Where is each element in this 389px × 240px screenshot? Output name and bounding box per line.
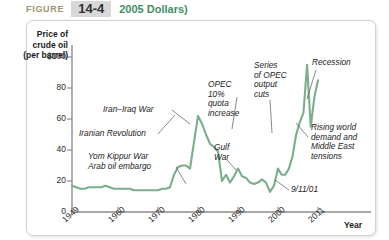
annotation-opec-cuts: Seriesof OPECoutputcuts bbox=[254, 61, 287, 99]
leader-line-opec-cuts bbox=[270, 100, 272, 133]
annotation-gulf-war: GulfWar bbox=[214, 143, 229, 162]
leader-line-iran-iraq-war bbox=[172, 110, 190, 124]
leader-line-yom-kippur bbox=[176, 167, 186, 184]
annotation-yom-kippur: Yom Kippur WarArab oil embargo bbox=[88, 152, 151, 171]
y-axis-tick-label: 80 bbox=[14, 82, 66, 92]
annotation-iranian-revolution: Iranian Revolution bbox=[79, 129, 146, 139]
y-axis-tick-label: 40 bbox=[14, 144, 66, 154]
x-axis-label: Year bbox=[344, 220, 362, 230]
annotation-nine-eleven: 9/11/01 bbox=[291, 185, 318, 195]
annotation-iran-iraq-war: Iran–Iraq War bbox=[103, 105, 154, 115]
y-axis-tick-label: 60 bbox=[14, 113, 66, 123]
figure-root: FIGURE 14-4 2005 Dollars) Price ofcrude … bbox=[0, 0, 389, 240]
leader-line-iranian-revolution bbox=[158, 115, 175, 134]
y-axis-tick-label: 20 bbox=[14, 175, 66, 185]
leader-line-nine-eleven bbox=[275, 180, 289, 190]
annotation-opec-quota: OPEC10%quotaincrease bbox=[208, 80, 239, 118]
y-axis-tick-label: 0 bbox=[14, 206, 66, 216]
annotation-rising-demand: Rising worlddemand andMiddle Easttension… bbox=[311, 123, 357, 161]
annotation-recession: Recession bbox=[312, 58, 351, 68]
y-axis-tick-label: $100 bbox=[14, 51, 66, 61]
